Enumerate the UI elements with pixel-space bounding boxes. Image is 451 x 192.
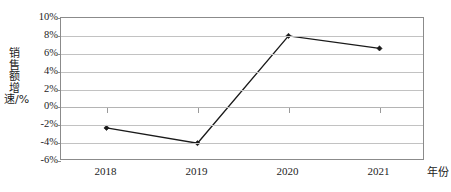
y-axis-title: 销售额增速/% bbox=[4, 48, 24, 106]
y-axis-tick-label: -4% bbox=[22, 137, 58, 148]
data-point-marker bbox=[377, 46, 382, 51]
y-axis-tick-label: 6% bbox=[22, 48, 58, 59]
y-axis-tick-mark bbox=[57, 107, 61, 108]
sales-growth-line-chart: 销售额增速/% 10%8%6%4%2%0%-2%-4%-6% 201820192… bbox=[0, 0, 451, 192]
y-axis-tick-label: 4% bbox=[22, 65, 58, 76]
plot-area bbox=[60, 17, 424, 160]
category-tick-mark bbox=[107, 108, 108, 113]
category-tick-mark bbox=[380, 108, 381, 113]
x-axis-title: 年份 bbox=[427, 166, 449, 179]
x-axis-tick-label: 2019 bbox=[186, 165, 208, 178]
gridline bbox=[61, 90, 423, 91]
y-axis-tick-label: 10% bbox=[22, 12, 58, 23]
x-axis-tick-label: 2021 bbox=[368, 165, 390, 178]
y-axis-tick-label: -2% bbox=[22, 119, 58, 130]
y-axis-tick-mark bbox=[57, 36, 61, 37]
y-axis-tick-label: -6% bbox=[22, 155, 58, 166]
category-tick-mark bbox=[289, 108, 290, 113]
y-axis-tick-label: 8% bbox=[22, 30, 58, 41]
y-axis-tick-label-group: 10%8%6%4%2%0%-2%-4%-6% bbox=[22, 10, 58, 168]
y-axis-tick-label: 2% bbox=[22, 83, 58, 94]
gridline bbox=[61, 143, 423, 144]
y-axis-tick-mark bbox=[57, 18, 61, 19]
y-axis-tick-label: 0% bbox=[22, 101, 58, 112]
gridline bbox=[61, 107, 423, 108]
x-axis-tick-label: 2018 bbox=[95, 165, 117, 178]
x-axis-tick-label: 2020 bbox=[277, 165, 299, 178]
y-axis-tick-mark bbox=[57, 90, 61, 91]
gridline bbox=[61, 125, 423, 126]
gridline bbox=[61, 72, 423, 73]
y-axis-tick-mark bbox=[57, 161, 61, 162]
y-axis-tick-mark bbox=[57, 72, 61, 73]
gridline bbox=[61, 36, 423, 37]
category-tick-mark bbox=[198, 108, 199, 113]
y-axis-tick-mark bbox=[57, 143, 61, 144]
y-axis-tick-mark bbox=[57, 54, 61, 55]
gridline bbox=[61, 54, 423, 55]
x-axis-tick-label-group: 2018201920202021 bbox=[60, 165, 424, 183]
y-axis-tick-mark bbox=[57, 125, 61, 126]
